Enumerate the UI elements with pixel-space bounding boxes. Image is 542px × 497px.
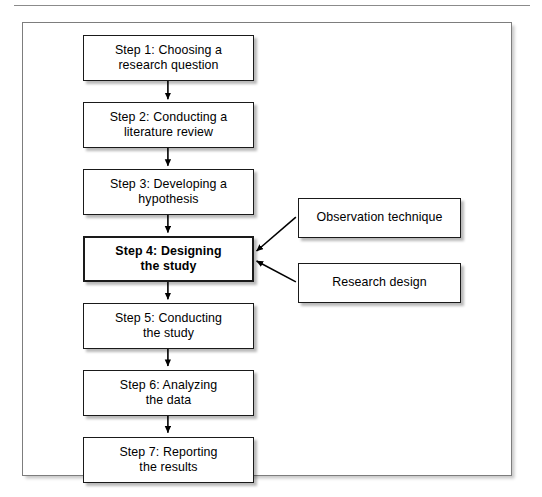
flow-node-research-design[interactable]: Research design: [298, 263, 461, 303]
arrow-research-design-step4: [257, 261, 296, 282]
figure-frame: Step 1: Choosing a research question Ste…: [22, 22, 512, 476]
flow-node-step1[interactable]: Step 1: Choosing a research question: [83, 35, 254, 81]
flow-node-step6[interactable]: Step 6: Analyzing the data: [83, 370, 254, 416]
flow-node-step4-highlighted[interactable]: Step 4: Designing the study: [83, 236, 254, 282]
flow-node-step5[interactable]: Step 5: Conducting the study: [83, 303, 254, 349]
flow-node-step2-label: Step 2: Conducting a literature review: [104, 110, 234, 141]
cropped-caption-text: [18, 0, 518, 4]
flow-node-step4-label: Step 4: Designing the study: [109, 244, 227, 275]
flow-node-step3[interactable]: Step 3: Developing a hypothesis: [83, 169, 254, 215]
caption-divider-rule: [14, 5, 530, 6]
flow-node-observation-technique[interactable]: Observation technique: [298, 198, 461, 238]
flow-node-research-design-label: Research design: [326, 275, 432, 291]
flow-node-step3-label: Step 3: Developing a hypothesis: [104, 177, 233, 208]
arrow-observation-step4: [257, 217, 296, 251]
flow-node-step2[interactable]: Step 2: Conducting a literature review: [83, 102, 254, 148]
flow-node-step1-label: Step 1: Choosing a research question: [109, 43, 228, 74]
flow-node-step6-label: Step 6: Analyzing the data: [114, 378, 223, 409]
flow-node-step7[interactable]: Step 7: Reporting the results: [83, 437, 254, 483]
flow-node-observation-technique-label: Observation technique: [310, 210, 448, 226]
flow-node-step5-label: Step 5: Conducting the study: [109, 311, 228, 342]
flow-node-step7-label: Step 7: Reporting the results: [113, 445, 223, 476]
